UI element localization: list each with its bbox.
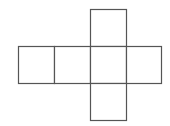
cube-net-diagram xyxy=(0,0,170,126)
cube-face-center xyxy=(91,47,127,84)
cube-face-left-1 xyxy=(19,47,55,84)
cube-face-top xyxy=(91,10,127,47)
cube-face-bottom xyxy=(91,84,127,121)
cube-face-left-2 xyxy=(55,47,91,84)
cube-face-right xyxy=(127,47,162,84)
